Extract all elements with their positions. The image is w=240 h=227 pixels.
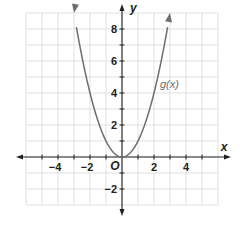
y-tick-label: 4 (111, 87, 118, 99)
y-axis-label: y (129, 1, 138, 15)
curve-label-g: g(x) (160, 78, 179, 90)
curve-arrow-left-icon (72, 4, 79, 13)
y-tick-label: −2 (104, 183, 117, 195)
x-axis-arrow-left-icon (16, 155, 23, 160)
x-axis-arrow-right-icon (224, 155, 231, 160)
y-axis-arrow-up-icon (120, 4, 125, 11)
axes (16, 4, 231, 216)
x-tick-label: −2 (81, 161, 94, 173)
x-tick-label: −4 (49, 161, 62, 173)
x-axis-label: x (220, 140, 229, 154)
y-tick-label: 6 (111, 55, 117, 67)
x-tick-label: 4 (183, 161, 190, 173)
coordinate-plane: −4−2248642−2 x y O g(x) (0, 0, 240, 227)
y-axis-arrow-down-icon (120, 209, 125, 216)
curve-arrow-right-icon (165, 13, 172, 22)
origin-label: O (110, 159, 120, 173)
y-tick-label: 8 (111, 23, 117, 35)
y-tick-label: 2 (111, 119, 117, 131)
x-tick-label: 2 (151, 161, 157, 173)
